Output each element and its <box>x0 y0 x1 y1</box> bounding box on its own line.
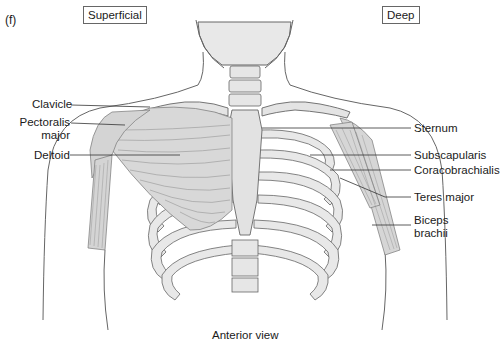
deep-view-label: Deep <box>382 6 420 24</box>
label-sternum: Sternum <box>414 122 457 135</box>
label-pectoralis-major: Pectoralis major <box>12 116 70 142</box>
label-biceps-line1: Biceps <box>414 214 449 227</box>
thoracic-spine <box>232 240 258 292</box>
label-pectoralis-line1: Pectoralis <box>12 116 70 129</box>
label-teres-major: Teres major <box>414 191 474 204</box>
superficial-view-label: Superficial <box>83 6 147 24</box>
label-clavicle: Clavicle <box>32 98 72 111</box>
head-shape <box>198 22 291 65</box>
label-pectoralis-line2: major <box>12 129 70 142</box>
label-deltoid: Deltoid <box>34 149 70 162</box>
label-subscapularis: Subscapularis <box>414 149 486 162</box>
label-coracobrachialis: Coracobrachialis <box>414 164 500 177</box>
label-biceps-line2: brachii <box>414 227 449 240</box>
panel-label: (f) <box>5 13 16 27</box>
label-biceps-brachii: Biceps brachii <box>414 214 449 240</box>
figure-caption: Anterior view <box>212 329 278 341</box>
cervical-spine <box>229 66 261 106</box>
sternum <box>228 110 262 235</box>
